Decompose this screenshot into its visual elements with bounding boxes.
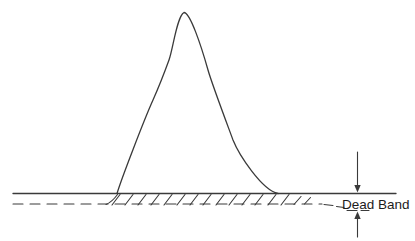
down-arrow-head (354, 185, 360, 193)
dead-band-label: Dead Band (342, 197, 410, 212)
up-arrow-head (354, 212, 360, 220)
dead-band-hatch-pattern (112, 195, 311, 206)
down-arrow-icon (354, 152, 360, 193)
signal-peak-curve (117, 13, 278, 194)
dead-band-diagram-canvas: Dead Band (0, 0, 415, 241)
up-arrow-icon (354, 212, 360, 238)
dead-band-diagram: Dead Band (0, 0, 415, 241)
